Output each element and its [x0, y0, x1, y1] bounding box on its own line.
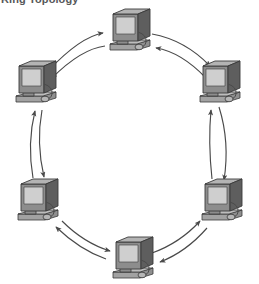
- computer-icon: [200, 61, 240, 102]
- computer-node-lower-right[interactable]: [196, 178, 248, 224]
- computer-icon: [202, 179, 242, 220]
- link-arrow-n5-n6: [30, 111, 35, 178]
- link-arrow-n3-n4: [160, 228, 207, 262]
- link-arrow-n2-n3: [219, 107, 226, 180]
- computer-node-lower-left[interactable]: [12, 178, 64, 224]
- computer-icon: [110, 9, 150, 50]
- computer-icon: [113, 237, 153, 278]
- computer-icon: [16, 61, 56, 102]
- link-arrow-n6-n5: [39, 110, 44, 177]
- link-arrow-n4-n3: [152, 221, 200, 253]
- ring-topology-diagram: Ring Topology: [0, 0, 259, 284]
- link-arrow-n4-n5: [56, 227, 106, 259]
- computer-icon: [18, 179, 58, 220]
- link-arrow-n5-n4: [62, 221, 110, 251]
- computer-node-upper-left[interactable]: [10, 60, 62, 106]
- computer-node-upper-right[interactable]: [194, 60, 246, 106]
- link-arrow-n3-n2: [210, 110, 212, 179]
- computer-node-top-center[interactable]: [104, 8, 156, 54]
- computer-node-bottom-center[interactable]: [107, 236, 159, 282]
